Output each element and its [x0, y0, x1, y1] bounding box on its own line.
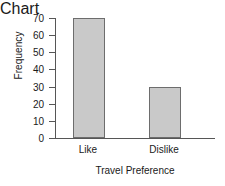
plot-area [55, 18, 215, 138]
x-tick-label-dislike: Dislike [128, 144, 200, 155]
bar-like [73, 18, 105, 138]
bar-dislike [149, 87, 181, 138]
x-tick-label-like: Like [52, 144, 124, 155]
x-axis-title: Travel Preference [45, 165, 225, 176]
bar-chart-figure: Frequency 70 60 50 40 30 20 10 0 Like Di… [0, 0, 225, 186]
